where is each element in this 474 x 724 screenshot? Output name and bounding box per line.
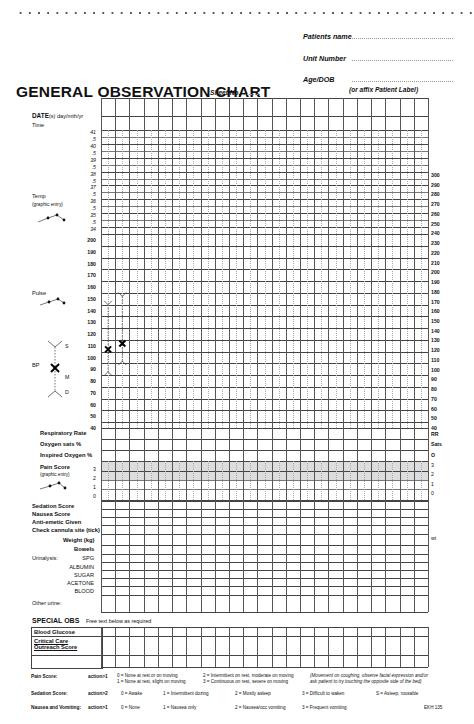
bp-readings [0,0,474,724]
